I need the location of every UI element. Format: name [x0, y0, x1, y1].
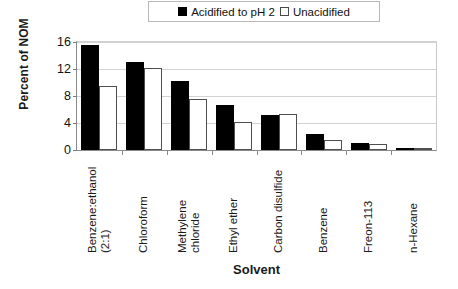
bar-acidified: [216, 105, 234, 150]
bar-acidified: [126, 62, 144, 150]
category-label-text: Carbon disulfide: [272, 157, 285, 253]
legend-entry-acidified: Acidified to pH 2: [178, 6, 275, 18]
category-label-text: Benzene: [317, 157, 330, 253]
legend-entry-unacidified: Unacidified: [280, 6, 350, 18]
y-gridline: [77, 42, 436, 43]
bar-unacidified: [369, 144, 387, 150]
category-label-text: Ethyl ether: [227, 157, 240, 253]
y-axis-tick: [73, 150, 77, 151]
x-axis-category-label: Methylene chloride: [166, 157, 211, 253]
category-label-text: n-Hexane: [406, 157, 419, 253]
x-axis-category-label: Ethyl ether: [211, 157, 256, 253]
bar-acidified: [351, 143, 369, 150]
x-axis-tick: [212, 150, 213, 155]
bar-acidified: [81, 45, 99, 150]
y-axis-tick-label: 4: [64, 117, 71, 129]
bar-acidified: [306, 134, 324, 150]
y-axis-tick-label: 8: [64, 90, 71, 102]
x-axis-tick: [122, 150, 123, 155]
bar-unacidified: [234, 122, 252, 150]
x-axis-category-label: Freon-113: [345, 157, 390, 253]
x-axis-category-label: Benzene: [300, 157, 345, 253]
category-label-text: Freon-113: [361, 157, 374, 253]
x-axis-category-labels: Benzene:ethanol (2:1)ChloroformMethylene…: [76, 157, 437, 255]
x-axis-tick: [391, 150, 392, 155]
y-axis-tick: [73, 69, 77, 70]
y-axis-tick: [73, 96, 77, 97]
bar-unacidified: [144, 68, 162, 150]
y-axis-tick-label: 16: [57, 36, 71, 48]
bar-unacidified: [189, 99, 207, 150]
legend-label-acidified: Acidified to pH 2: [191, 6, 275, 18]
y-axis-tick-label: 12: [57, 63, 71, 75]
legend-swatch-filled-square-icon: [178, 7, 187, 16]
x-axis-category-label: Carbon disulfide: [256, 157, 301, 253]
x-axis-category-label: Chloroform: [121, 157, 166, 253]
y-axis-tick: [73, 42, 77, 43]
bar-unacidified: [279, 114, 297, 150]
bar-acidified: [261, 115, 279, 150]
category-label-text: Methylene chloride: [176, 157, 201, 253]
bar-unacidified: [99, 86, 117, 150]
bar-unacidified: [324, 140, 342, 150]
x-axis-category-label: n-Hexane: [390, 157, 435, 253]
bar-unacidified: [414, 148, 432, 150]
bar-acidified: [396, 148, 414, 150]
category-label-text: Benzene:ethanol (2:1): [86, 157, 111, 253]
y-axis-title: Percent of NOM: [17, 9, 31, 119]
x-axis-tick: [301, 150, 302, 155]
chart-legend: Acidified to pH 2 Unacidified: [148, 1, 380, 22]
y-axis-tick: [73, 123, 77, 124]
x-axis-tick: [346, 150, 347, 155]
legend-label-unacidified: Unacidified: [293, 6, 350, 18]
x-axis-category-label: Benzene:ethanol (2:1): [76, 157, 121, 253]
x-axis-title: Solvent: [76, 262, 437, 277]
y-axis-tick-label: 0: [64, 144, 71, 156]
category-label-text: Chloroform: [137, 157, 150, 253]
legend-swatch-hollow-square-icon: [280, 7, 289, 16]
x-axis-tick: [257, 150, 258, 155]
plot-area: 0481216: [76, 41, 437, 151]
x-axis-tick: [167, 150, 168, 155]
bar-acidified: [171, 81, 189, 150]
